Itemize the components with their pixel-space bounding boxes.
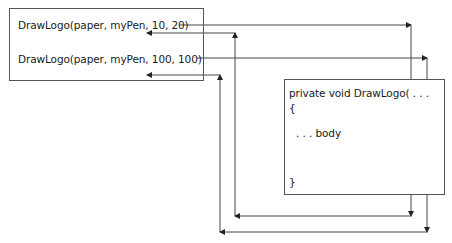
method-close-brace: } bbox=[289, 176, 296, 188]
method-signature: private void DrawLogo( . . . bbox=[289, 87, 429, 99]
method-body: . . . body bbox=[296, 127, 341, 139]
call-1-text: DrawLogo(paper, myPen, 10, 20) bbox=[18, 19, 189, 31]
method-open-brace: { bbox=[289, 102, 296, 114]
call-2-text: DrawLogo(paper, myPen, 100, 100) bbox=[18, 53, 202, 65]
